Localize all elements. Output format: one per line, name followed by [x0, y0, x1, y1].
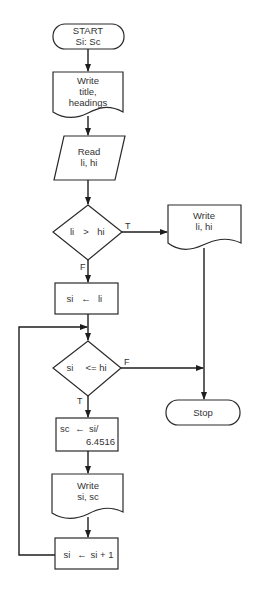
write-headings-line1: Write: [77, 75, 99, 86]
decision2-true-label: T: [77, 396, 83, 406]
assign-si-left: si: [67, 293, 74, 304]
left-arrow-icon: ←: [77, 549, 87, 560]
write-values-document: Write si, sc: [52, 474, 123, 518]
write-values-line1: Write: [77, 480, 99, 491]
write-limits-line2: li, hi: [196, 221, 213, 232]
assign-si-process: si ← li: [55, 283, 118, 314]
start-label: START: [73, 25, 103, 36]
decision1-left: li: [70, 226, 74, 237]
assign-si-right: li: [98, 293, 102, 304]
stop-label: Stop: [193, 407, 213, 418]
left-arrow-icon: ←: [81, 293, 91, 304]
decision-li-greater-hi: li > hi: [53, 205, 122, 260]
compute-sc-left: sc: [60, 423, 70, 434]
write-headings-line2: title,: [79, 86, 96, 97]
left-arrow-icon: ←: [75, 423, 85, 434]
compute-sc-process: sc ← si/ 6.4516: [56, 418, 118, 451]
decision1-right: hi: [97, 226, 104, 237]
increment-process: si ← si + 1: [55, 538, 118, 569]
flowchart: START Si: Sc Write title, headings Read …: [0, 0, 254, 599]
write-limits-line1: Write: [193, 210, 215, 221]
decision2-op: <= hi: [85, 362, 106, 373]
read-input: Read li, hi: [54, 136, 125, 180]
write-headings-document: Write title, headings: [53, 72, 123, 117]
write-headings-line3: headings: [69, 97, 108, 108]
write-limits-document: Write li, hi: [168, 205, 241, 249]
decision2-false-label: F: [124, 357, 130, 367]
increment-right: si + 1: [91, 549, 114, 560]
decision1-false-label: F: [80, 262, 86, 272]
stop-terminal: Stop: [166, 400, 240, 425]
write-values-line2: si, sc: [77, 491, 99, 502]
compute-sc-divisor: 6.4516: [86, 436, 115, 447]
increment-left: si: [64, 549, 71, 560]
read-line2: li, hi: [81, 157, 98, 168]
start-terminal: START Si: Sc: [53, 24, 124, 49]
decision-si-le-hi: si <= hi: [53, 341, 121, 396]
compute-sc-right: si/: [89, 423, 99, 434]
decision2-left: si: [67, 362, 74, 373]
decision1-op: >: [83, 226, 89, 237]
start-vars: Si: Sc: [76, 36, 101, 47]
read-line1: Read: [78, 146, 101, 157]
decision1-true-label: T: [125, 221, 131, 231]
